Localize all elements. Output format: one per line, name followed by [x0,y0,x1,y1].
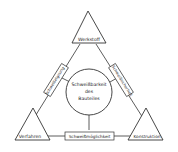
center-label-line-1: Schweißbarkeit [71,82,106,87]
center-label-line-2: des [85,89,94,94]
corner-label-top: Werkstoff [78,37,101,42]
weldability-diagram: Werkstoff Verfahren Konstruktion Schweiß… [0,0,178,152]
edge-label-bottom: Schweißmöglichkeit [69,134,111,139]
edge-label-left: Schweißeignung [44,65,65,95]
corner-label-right: Konstruktion [133,134,160,139]
corner-label-left: Verfahren [19,134,41,139]
center-label-line-3: Bauteiles [78,96,100,101]
edge-label-right: Schweißsicherheit [111,64,134,97]
